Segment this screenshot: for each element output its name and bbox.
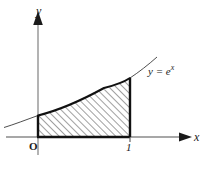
y-axis-label: y bbox=[36, 5, 41, 17]
curve-equation-exponent: x bbox=[171, 63, 175, 72]
x-tick-label-1: 1 bbox=[126, 142, 132, 153]
figure-area-under-exponential-curve: y x O 1 y = ex bbox=[0, 0, 207, 179]
curve-equation-label: y = ex bbox=[148, 64, 174, 77]
diagram-canvas bbox=[0, 0, 207, 179]
origin-label: O bbox=[29, 141, 38, 152]
curve-tail-left bbox=[4, 116, 38, 128]
x-axis-arrowhead bbox=[179, 132, 192, 141]
x-axis-label: x bbox=[194, 131, 199, 143]
curve-equation-base: y = e bbox=[148, 65, 171, 77]
